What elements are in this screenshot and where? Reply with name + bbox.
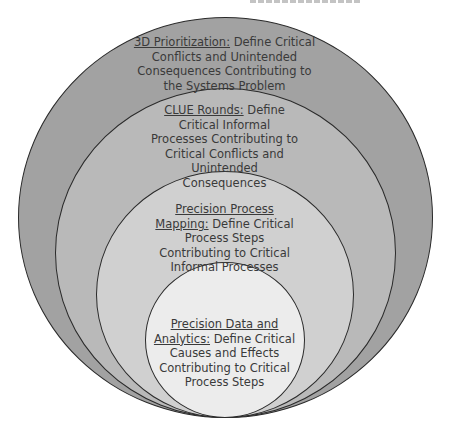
ring-heading: 3D Prioritization: bbox=[134, 35, 230, 49]
label-3d-prioritization: 3D Prioritization: Define Critical Confl… bbox=[0, 35, 449, 93]
label-clue-rounds: CLUE Rounds: Define Critical Informal Pr… bbox=[0, 103, 449, 190]
cropped-title-remnant bbox=[250, 0, 360, 3]
label-precision-process-mapping: Precision Process Mapping: Define Critic… bbox=[0, 202, 449, 275]
ring-heading: CLUE Rounds: bbox=[164, 103, 243, 117]
label-precision-data-analytics: Precision Data and Analytics: Define Cri… bbox=[0, 317, 449, 390]
